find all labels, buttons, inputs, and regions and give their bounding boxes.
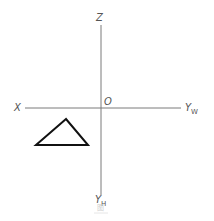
figure-caption: 图 bbox=[97, 205, 104, 212]
diagram-canvas bbox=[0, 0, 214, 221]
x-axis-label: X bbox=[14, 103, 21, 113]
yw-axis-label: YW bbox=[185, 103, 198, 116]
z-axis-label: Z bbox=[96, 13, 103, 23]
origin-label: O bbox=[104, 97, 112, 107]
triangle-projection bbox=[36, 119, 88, 145]
yw-subscript: W bbox=[191, 108, 198, 116]
